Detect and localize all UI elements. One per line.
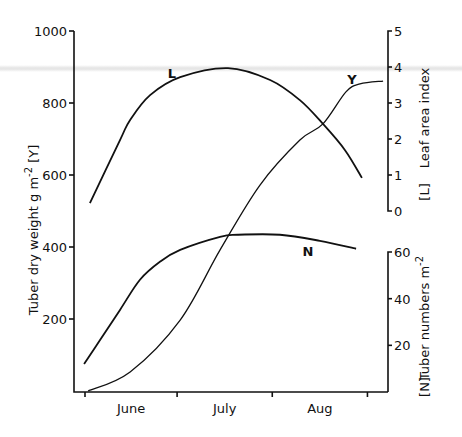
tuber-number-axis-label: Tuber numbers m-2 bbox=[414, 256, 432, 381]
tuber-number-tick-label: 40 bbox=[394, 292, 411, 307]
series-N-line bbox=[84, 234, 356, 364]
y-tick-label: 400 bbox=[42, 240, 67, 255]
lai-tick-label: 1 bbox=[394, 168, 402, 183]
lai-tick-label: 2 bbox=[394, 132, 402, 147]
y-tick-label: 200 bbox=[42, 312, 67, 327]
lai-axis-tag: [L] bbox=[417, 183, 432, 200]
tuber-number-axis-tag: [N] bbox=[417, 377, 432, 397]
series-L-label: L bbox=[168, 66, 176, 81]
x-tick-label-aug: Aug bbox=[307, 401, 332, 416]
series-Y-label: Y bbox=[346, 72, 357, 87]
chart: 2004006008001000Tuber dry weight g m-2 [… bbox=[0, 0, 462, 437]
labels: LYN bbox=[168, 66, 357, 259]
x-tick-label-july: July bbox=[212, 401, 237, 416]
lai-axis-line bbox=[388, 31, 392, 211]
lai-tick-label: 3 bbox=[394, 96, 402, 111]
x-tick-label-june: June bbox=[116, 401, 145, 416]
lai-tick-label: 4 bbox=[394, 60, 402, 75]
tuber-number-tick-label: 60 bbox=[394, 245, 411, 260]
y-axis-label: Tuber dry weight g m-2 [Y] bbox=[23, 145, 41, 317]
y-tick-label: 600 bbox=[42, 168, 67, 183]
series-N-label: N bbox=[303, 244, 314, 259]
lai-tick-label: 5 bbox=[394, 24, 402, 39]
curves bbox=[84, 68, 383, 391]
tuber-number-axis-line bbox=[388, 252, 392, 392]
lai-axis-label: Leaf area index bbox=[417, 68, 432, 169]
y-tick-label: 1000 bbox=[34, 24, 67, 39]
series-Y-line bbox=[88, 81, 383, 391]
lai-tick-label: 0 bbox=[394, 204, 402, 219]
y-tick-label: 800 bbox=[42, 96, 67, 111]
left-axis-line bbox=[74, 31, 388, 392]
tuber-number-tick-label: 20 bbox=[394, 338, 411, 353]
series-L-line bbox=[90, 68, 362, 203]
